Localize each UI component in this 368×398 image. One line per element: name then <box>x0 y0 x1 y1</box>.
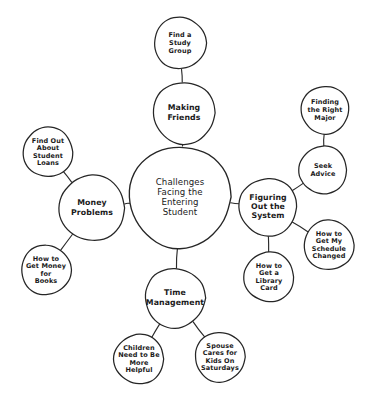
edge-figuring-out-the-system-to-how-to-get-my-schedule-changed <box>293 222 308 231</box>
node-how-to-get-money-for-books[interactable]: How toGet MoneyforBooks <box>22 245 72 294</box>
node-label-how-to-get-my-schedule-changed: How toGet MyScheduleChanged <box>312 229 347 260</box>
edge-time-management-to-children-need-to-be-more-helpful <box>152 324 160 338</box>
node-label-line: Saturdays <box>201 364 239 372</box>
node-label-line: System <box>251 211 284 220</box>
node-find-out-about-student-loans[interactable]: Find OutAboutStudentLoans <box>23 127 73 176</box>
node-label-line: Friends <box>167 113 200 122</box>
node-label-line: Card <box>260 284 278 292</box>
node-label-line: Loans <box>37 159 59 167</box>
node-layer: ChallengesFacing theEnteringStudentMakin… <box>22 17 354 384</box>
edge-money-problems-to-how-to-get-money-for-books <box>61 235 72 250</box>
node-seek-advice[interactable]: SeekAdvice <box>299 146 347 194</box>
edge-center-to-figuring-out-the-system <box>231 203 240 204</box>
edge-figuring-out-the-system-to-seek-advice <box>292 183 303 190</box>
node-label-line: Helpful <box>125 366 152 374</box>
node-label-spouse-cares-for-kids-on-saturdays: SpouseCares forKids OnSaturdays <box>201 341 239 372</box>
mind-map-diagram: ChallengesFacing theEnteringStudentMakin… <box>0 0 368 398</box>
node-making-friends[interactable]: MakingFriends <box>153 83 215 145</box>
node-label-find-a-study-group: Find aStudyGroup <box>168 31 191 54</box>
node-label-line: Group <box>169 46 192 54</box>
node-label-line: Out the <box>251 202 285 211</box>
node-money-problems[interactable]: MoneyProblems <box>59 175 125 240</box>
node-label-line: Student <box>163 206 198 216</box>
node-label-line: Figuring <box>249 193 287 202</box>
node-how-to-get-a-library-card[interactable]: How toGet aLibraryCard <box>244 252 294 302</box>
node-label-making-friends: MakingFriends <box>167 104 200 122</box>
node-label-figuring-out-the-system: FiguringOut theSystem <box>249 193 287 220</box>
node-figuring-out-the-system[interactable]: FiguringOut theSystem <box>239 179 297 237</box>
edge-time-management-to-spouse-cares-for-kids-on-saturdays <box>193 322 205 337</box>
node-label-line: Problems <box>71 208 113 217</box>
node-label-line: Money <box>77 199 107 208</box>
node-finding-the-right-major[interactable]: Findingthe RightMajor <box>301 87 349 135</box>
node-label-line: Major <box>314 113 336 121</box>
node-label-line: Time <box>164 289 186 298</box>
node-time-management[interactable]: TimeManagement <box>145 269 205 329</box>
mind-map-canvas: ChallengesFacing theEnteringStudentMakin… <box>0 0 368 398</box>
node-label-line: Challenges <box>156 177 205 187</box>
node-label-line: Management <box>146 298 205 307</box>
edge-center-to-time-management <box>176 248 177 268</box>
node-how-to-get-my-schedule-changed[interactable]: How toGet MyScheduleChanged <box>304 220 354 270</box>
node-label-line: Making <box>168 104 201 113</box>
edge-making-friends-to-find-a-study-group <box>181 69 182 82</box>
node-label-line: Facing the <box>157 187 202 197</box>
node-center[interactable]: ChallengesFacing theEnteringStudent <box>129 147 231 248</box>
edge-center-to-money-problems <box>125 203 130 204</box>
node-spouse-cares-for-kids-on-saturdays[interactable]: SpouseCares forKids OnSaturdays <box>196 333 246 383</box>
node-label-line: Entering <box>161 196 198 206</box>
node-label-line: Advice <box>310 170 336 178</box>
edge-money-problems-to-find-out-about-student-loans <box>63 172 71 182</box>
node-label-line: Books <box>35 277 58 285</box>
node-label-line: Changed <box>313 252 346 260</box>
edge-seek-advice-to-finding-the-right-major <box>324 134 325 146</box>
node-children-need-to-be-more-helpful[interactable]: ChildrenNeed to BeMoreHelpful <box>114 334 164 384</box>
node-find-a-study-group[interactable]: Find aStudyGroup <box>155 17 207 68</box>
